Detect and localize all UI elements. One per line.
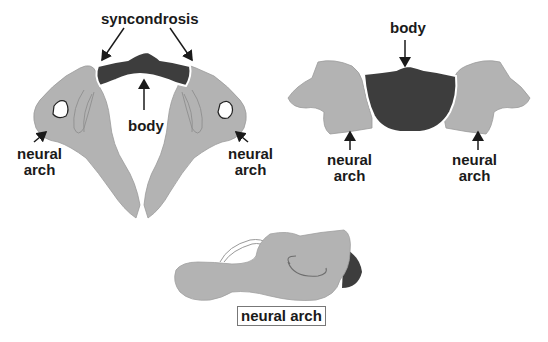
right-neural-arch-shape: [144, 66, 246, 218]
right-neural-arch-coronal: [444, 61, 530, 134]
label-line: arch: [452, 168, 497, 184]
label-body-axial: body: [128, 118, 164, 134]
vertebral-body-coronal: [364, 66, 456, 132]
label-line: neural: [327, 152, 372, 168]
label-neural-arch-right-coronal: neural arch: [452, 152, 497, 184]
label-line: neural: [452, 152, 497, 168]
lateral-neural-arch-shape: [175, 230, 351, 301]
label-body-coronal: body: [390, 20, 426, 36]
label-line: neural: [228, 146, 273, 162]
label-neural-arch-lateral: neural arch: [237, 306, 326, 326]
label-neural-arch-left-coronal: neural arch: [327, 152, 372, 184]
label-syncondrosis: syncondrosis: [101, 11, 199, 27]
label-neural-arch-right-axial: neural arch: [228, 146, 273, 178]
label-line: arch: [228, 162, 273, 178]
label-line: arch: [17, 162, 62, 178]
lateral-view: [175, 230, 362, 301]
label-line: arch: [327, 168, 372, 184]
left-neural-arch-coronal: [288, 61, 372, 134]
label-neural-arch-left-axial: neural arch: [17, 146, 62, 178]
coronal-view: [288, 40, 530, 150]
right-foramen: [218, 101, 233, 118]
label-line: neural: [17, 146, 62, 162]
left-neural-arch-shape: [34, 66, 140, 218]
